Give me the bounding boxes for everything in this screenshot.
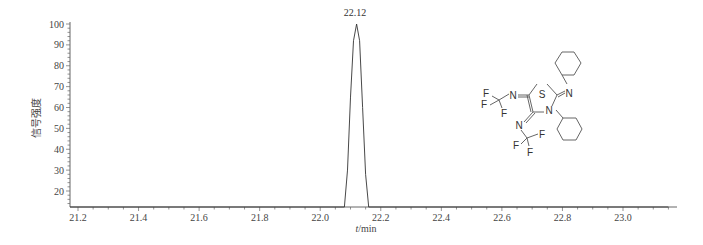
svg-text:S: S bbox=[539, 89, 546, 100]
svg-text:21.6: 21.6 bbox=[190, 212, 208, 223]
peak-label: 22.12 bbox=[344, 7, 367, 18]
svg-text:22.6: 22.6 bbox=[493, 212, 511, 223]
svg-text:21.8: 21.8 bbox=[251, 212, 269, 223]
x-axis-title: t/min bbox=[355, 223, 376, 234]
svg-text:F: F bbox=[539, 129, 545, 140]
svg-text:21.2: 21.2 bbox=[69, 212, 87, 223]
svg-text:F: F bbox=[481, 99, 487, 110]
svg-text:N: N bbox=[545, 105, 552, 116]
svg-text:21.4: 21.4 bbox=[130, 212, 148, 223]
svg-text:N: N bbox=[565, 88, 572, 99]
svg-text:80: 80 bbox=[54, 60, 64, 71]
x-tick-labels: 21.221.421.621.822.022.222.422.622.823.0 bbox=[69, 212, 632, 223]
x-axis bbox=[70, 207, 677, 211]
chromatogram-trace bbox=[70, 24, 668, 207]
svg-text:90: 90 bbox=[54, 39, 64, 50]
svg-text:100: 100 bbox=[49, 19, 64, 30]
y-axis-title: 信号强度 bbox=[30, 98, 42, 138]
svg-text:20: 20 bbox=[54, 186, 64, 197]
y-tick-labels: 2030405060708090100 bbox=[49, 19, 64, 197]
svg-text:70: 70 bbox=[54, 81, 64, 92]
svg-text:N: N bbox=[509, 90, 516, 101]
svg-text:22.0: 22.0 bbox=[311, 212, 329, 223]
svg-text:F: F bbox=[483, 88, 489, 99]
svg-text:30: 30 bbox=[54, 165, 64, 176]
svg-text:F: F bbox=[501, 108, 507, 119]
molecule-atom-labels: S N N N N F F F F F F bbox=[481, 88, 573, 158]
svg-text:23.0: 23.0 bbox=[614, 212, 632, 223]
svg-text:22.8: 22.8 bbox=[554, 212, 572, 223]
molecule-structure bbox=[490, 52, 582, 146]
svg-text:22.4: 22.4 bbox=[433, 212, 451, 223]
svg-text:22.2: 22.2 bbox=[372, 212, 390, 223]
chromatogram-chart: 2030405060708090100 21.221.421.621.822.0… bbox=[0, 0, 703, 245]
y-axis bbox=[66, 22, 70, 207]
svg-text:N: N bbox=[515, 120, 522, 131]
svg-text:60: 60 bbox=[54, 102, 64, 113]
svg-text:40: 40 bbox=[54, 144, 64, 155]
svg-text:F: F bbox=[513, 140, 519, 151]
svg-text:50: 50 bbox=[54, 123, 64, 134]
svg-text:F: F bbox=[527, 147, 533, 158]
